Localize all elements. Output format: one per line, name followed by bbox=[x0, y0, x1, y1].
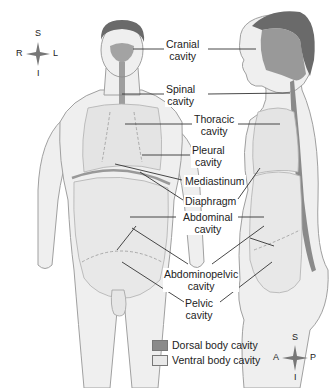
label-abdominopelvic-cavity: Abdominopelviccavity bbox=[163, 268, 239, 292]
label-pelvic-cavity: Pelviccavity bbox=[184, 297, 214, 321]
compass-front-s: S bbox=[35, 28, 41, 38]
legend-dorsal-label: Dorsal body cavity bbox=[172, 339, 258, 351]
dorsal-swatch bbox=[152, 340, 168, 351]
compass-side-i: I bbox=[294, 372, 297, 382]
legend-ventral-label: Ventral body cavity bbox=[172, 354, 260, 366]
compass-front-graphic bbox=[26, 42, 50, 66]
label-spinal-cavity: Spinalcavity bbox=[165, 83, 196, 107]
compass-front-i: I bbox=[37, 68, 40, 78]
compass-front-r: R bbox=[16, 48, 23, 58]
compass-front-l: L bbox=[53, 48, 58, 58]
ventral-swatch bbox=[152, 355, 168, 366]
compass-side-s: S bbox=[292, 332, 298, 342]
label-cranial-cavity: Cranialcavity bbox=[165, 38, 200, 62]
body-cavities-diagram: Cranialcavity Spinalcavity Thoraciccavit… bbox=[0, 0, 336, 388]
label-thoracic-cavity: Thoraciccavity bbox=[193, 113, 235, 137]
label-diaphragm: Diaphragm bbox=[184, 195, 237, 207]
legend-dorsal: Dorsal body cavity bbox=[152, 339, 258, 351]
compass-side-p: P bbox=[310, 352, 316, 362]
label-pleural-cavity: Pleuralcavity bbox=[191, 144, 226, 168]
label-abdominal-cavity: Abdominalcavity bbox=[182, 211, 234, 235]
compass-side-a: A bbox=[273, 352, 279, 362]
legend-ventral: Ventral body cavity bbox=[152, 354, 260, 366]
label-mediastinum: Mediastinum bbox=[184, 175, 246, 187]
